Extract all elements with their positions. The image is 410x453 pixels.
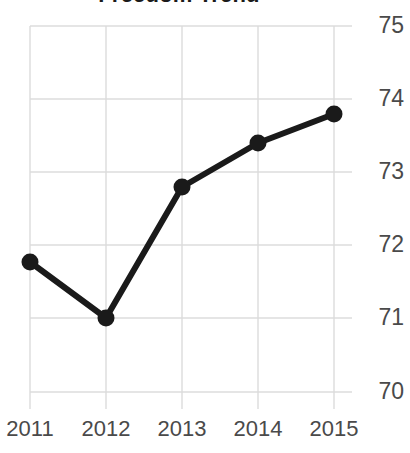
line-chart: Freedom Trend 75 74 73 72 71 70 2011 (0, 0, 410, 453)
data-point-2013 (174, 179, 191, 196)
grid-lines (30, 26, 352, 409)
x-axis-tick-label-2012: 2012 (66, 418, 146, 440)
y-axis-tick-label-73: 73 (356, 160, 404, 183)
y-axis-tick-label-70: 70 (356, 380, 404, 403)
data-point-2015 (326, 106, 343, 123)
y-axis-tick-label-72: 72 (356, 233, 404, 256)
y-axis-tick-label-75: 75 (356, 14, 404, 37)
data-point-2011 (22, 254, 39, 271)
data-point-2012 (98, 310, 115, 327)
x-axis-tick-label-2014: 2014 (218, 418, 298, 440)
x-axis-tick-label-2011: 2011 (0, 418, 70, 440)
x-axis-tick-label-2015: 2015 (294, 418, 374, 440)
plot-area (0, 0, 410, 453)
x-axis-tick-label-2013: 2013 (142, 418, 222, 440)
data-point-2014 (250, 135, 267, 152)
y-axis-tick-label-74: 74 (356, 87, 404, 110)
y-axis-tick-label-71: 71 (356, 306, 404, 329)
